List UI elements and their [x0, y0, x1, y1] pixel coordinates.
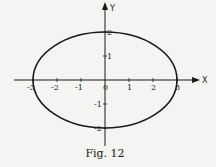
svg-text:1: 1: [127, 83, 132, 92]
svg-text:3: 3: [175, 83, 180, 92]
svg-text:1: 1: [107, 52, 112, 61]
svg-text:-2: -2: [94, 124, 102, 133]
x-tick-labels: -3 -2 -1 0 1 2 3: [27, 83, 180, 92]
svg-text:-2: -2: [51, 83, 59, 92]
svg-text:-1: -1: [94, 100, 102, 109]
y-axis-label: Y: [109, 4, 115, 13]
svg-text:0: 0: [103, 83, 108, 92]
svg-text:-3: -3: [27, 83, 35, 92]
svg-text:2: 2: [151, 83, 156, 92]
svg-text:2: 2: [107, 28, 112, 37]
figure-caption: Fig. 12: [0, 147, 210, 160]
svg-text:-1: -1: [75, 83, 83, 92]
ellipse-figure: X Y -3 -2 -1 0 1 2 3 2 1 -1 -2: [0, 0, 216, 167]
x-axis-arrow-icon: [192, 77, 200, 83]
y-axis-arrow-icon: [102, 2, 108, 10]
x-axis-label: X: [202, 76, 208, 85]
